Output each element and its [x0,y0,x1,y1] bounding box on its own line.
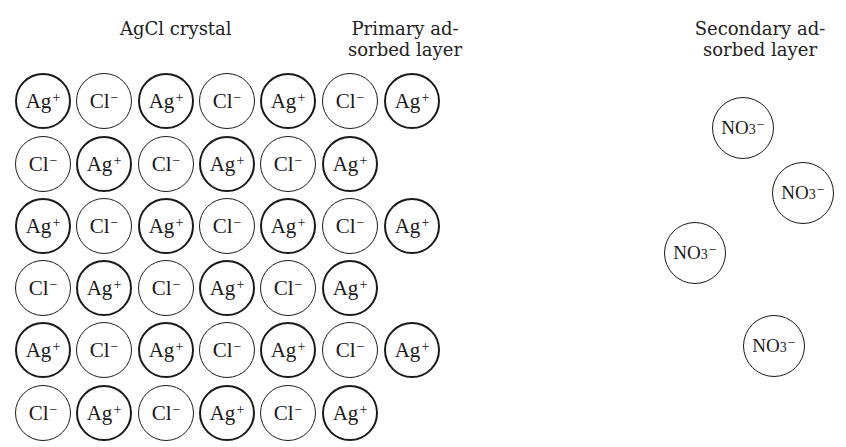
ion-symbol: Cl [336,338,356,363]
ion-symbol: Cl [274,152,294,177]
ion-charge: − [49,402,57,418]
ag-ion: Ag+ [384,73,440,129]
ag-ion: Ag+ [260,198,316,254]
ion-symbol: Ag [395,214,421,239]
cl-ion: Cl− [15,260,71,316]
ion-symbol: Ag [149,89,175,114]
ion-charge: − [294,277,302,293]
ion-symbol: Ag [87,276,113,301]
ion-charge: − [110,90,118,106]
primary-layer-label-line2: sorbed layer [330,39,480,60]
ion-charge: + [52,339,60,355]
ion-symbol: Cl [213,89,233,114]
ion-charge: − [172,153,180,169]
ion-charge: + [421,90,429,106]
ag-ion: Ag+ [199,136,255,192]
ion-symbol: Cl [90,214,110,239]
cl-ion: Cl− [76,198,132,254]
ion-charge: + [297,339,305,355]
ag-ion: Ag+ [138,198,194,254]
ag-ion: Ag+ [15,198,71,254]
no3-ion: NO3− [712,97,774,159]
ion-charge: + [359,402,367,418]
cl-ion: Cl− [76,73,132,129]
no3-ion: NO3− [743,315,805,377]
cl-ion: Cl− [322,73,378,129]
ag-ion: Ag+ [76,136,132,192]
ion-symbol: Ag [333,276,359,301]
ion-charge: + [236,153,244,169]
ion-charge: − [817,182,825,198]
cl-ion: Cl− [76,322,132,378]
cl-ion: Cl− [260,260,316,316]
ion-charge: + [236,402,244,418]
ion-charge: + [113,277,121,293]
ag-ion: Ag+ [199,260,255,316]
ag-ion: Ag+ [76,260,132,316]
ion-charge: − [294,402,302,418]
cl-ion: Cl− [138,136,194,192]
ion-symbol: Cl [152,276,172,301]
ion-charge: + [113,402,121,418]
ion-charge: + [52,215,60,231]
ion-subscript: 3 [780,340,787,356]
ion-symbol: Cl [29,152,49,177]
primary-layer-label-line1: Primary ad- [330,18,480,39]
ion-symbol: Cl [29,276,49,301]
ion-charge: + [297,215,305,231]
ion-charge: − [709,242,717,258]
ag-ion: Ag+ [322,385,378,441]
ion-charge: + [113,153,121,169]
agcl-crystal-label: AgCl crystal [120,18,232,39]
ion-symbol: Cl [336,214,356,239]
ion-charge: + [175,215,183,231]
ion-symbol: Cl [90,89,110,114]
ion-charge: − [233,215,241,231]
ion-symbol: NO [752,335,779,357]
ion-symbol: Ag [87,401,113,426]
secondary-layer-label: Secondary ad- sorbed layer [680,18,840,60]
ion-charge: − [172,277,180,293]
ion-symbol: Ag [333,152,359,177]
ion-charge: + [421,339,429,355]
ag-ion: Ag+ [260,73,316,129]
cl-ion: Cl− [322,322,378,378]
ion-symbol: Cl [336,89,356,114]
ion-symbol: NO [781,182,808,204]
no3-ion: NO3− [772,162,834,224]
cl-ion: Cl− [199,73,255,129]
ion-symbol: Ag [271,338,297,363]
ion-charge: + [297,90,305,106]
ag-ion: Ag+ [322,260,378,316]
ion-subscript: 3 [749,122,756,138]
secondary-layer-label-line1: Secondary ad- [680,18,840,39]
ion-symbol: Ag [149,214,175,239]
ag-ion: Ag+ [138,322,194,378]
ag-ion: Ag+ [322,136,378,192]
ion-charge: − [233,90,241,106]
ion-symbol: Ag [210,152,236,177]
ion-charge: − [233,339,241,355]
ag-ion: Ag+ [76,385,132,441]
ion-symbol: Cl [274,276,294,301]
ion-symbol: NO [721,117,748,139]
ion-symbol: Cl [90,338,110,363]
ion-charge: − [49,277,57,293]
ion-symbol: Cl [274,401,294,426]
ion-symbol: Cl [152,152,172,177]
cl-ion: Cl− [15,136,71,192]
ion-charge: + [359,153,367,169]
ion-charge: − [110,215,118,231]
ion-charge: − [356,215,364,231]
ag-ion: Ag+ [138,73,194,129]
ion-subscript: 3 [809,187,816,203]
ion-charge: + [421,215,429,231]
ion-charge: + [175,339,183,355]
ion-symbol: Ag [333,401,359,426]
ion-symbol: Ag [149,338,175,363]
ion-symbol: Ag [210,401,236,426]
ion-charge: + [52,90,60,106]
ion-symbol: Ag [26,214,52,239]
ion-charge: − [788,335,796,351]
ion-symbol: Cl [213,214,233,239]
